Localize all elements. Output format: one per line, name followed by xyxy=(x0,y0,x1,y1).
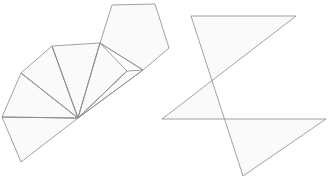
geometry-figure-canvas xyxy=(0,0,329,179)
